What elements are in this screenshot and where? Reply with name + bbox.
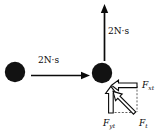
physics-diagram-figure: 2N·s 2N·s Fxt Fyt Ft <box>0 0 160 136</box>
left-ball <box>5 62 25 82</box>
x-component-label-subscript: xt <box>148 84 154 91</box>
y-component-label-subscript: yt <box>109 122 115 129</box>
x-component-label: Fxt <box>142 81 154 91</box>
horizontal-impulse-arrow <box>31 72 90 79</box>
resultant-arrow <box>113 91 136 114</box>
horizontal-impulse-label: 2N·s <box>38 56 59 65</box>
resultant-force-label: Ft <box>139 119 148 129</box>
right-ball <box>92 63 112 83</box>
y-component-label: Fyt <box>103 119 115 129</box>
y-component-arrow <box>106 86 117 113</box>
x-component-arrow <box>112 80 138 91</box>
resultant-force-label-subscript: t <box>145 122 147 129</box>
diagram-vector-layer <box>0 0 160 136</box>
vertical-impulse-label: 2N·s <box>108 27 129 36</box>
